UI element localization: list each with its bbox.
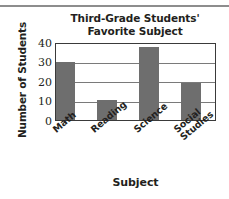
y-tick-label-40: 40 bbox=[28, 38, 52, 49]
chart-title: Third-Grade Students' Favorite Subject bbox=[46, 12, 224, 37]
y-tick-label-30: 30 bbox=[28, 57, 52, 68]
bar-chart-figure: Third-Grade Students' Favorite Subject N… bbox=[0, 0, 229, 199]
chart-title-line-1: Third-Grade Students' bbox=[46, 12, 224, 25]
gridline-30 bbox=[56, 63, 215, 64]
x-axis-title: Subject bbox=[55, 176, 216, 189]
y-axis-title: Number of Students bbox=[16, 20, 28, 140]
y-tick-label-20: 20 bbox=[28, 77, 52, 88]
y-tick-label-0: 0 bbox=[28, 116, 52, 127]
y-tick-label-10: 10 bbox=[28, 96, 52, 107]
top-divider-rule bbox=[0, 5, 229, 7]
chart-title-line-2: Favorite Subject bbox=[46, 25, 224, 38]
